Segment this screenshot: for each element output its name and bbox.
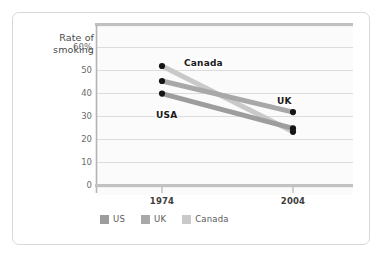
y-tick-20: 20 (58, 134, 92, 144)
legend-item-us[interactable]: US (100, 214, 125, 224)
chart-legend: US UK Canada (100, 214, 229, 224)
x-axis-spine (95, 184, 353, 187)
legend-item-canada[interactable]: Canada (182, 214, 229, 224)
datapoint-canada-1974 (159, 63, 165, 69)
plot-top-border (95, 23, 353, 26)
series-annotation-usa: USA (155, 110, 178, 120)
y-tick-30: 30 (58, 111, 92, 121)
x-tick-1974: 1974 (132, 196, 192, 206)
legend-label-canada: Canada (195, 214, 229, 224)
series-annotation-canada: Canada (183, 58, 224, 68)
datapoint-uk-1974 (159, 78, 165, 84)
y-tick-50: 50 (58, 65, 92, 75)
series-annotation-uk: UK (276, 96, 293, 106)
legend-label-us: US (113, 214, 125, 224)
legend-label-uk: UK (154, 214, 166, 224)
legend-swatch-canada (182, 215, 191, 224)
legend-swatch-us (100, 215, 109, 224)
y-tick-0: 0 (58, 180, 92, 190)
datapoint-canada-2004 (290, 129, 296, 135)
datapoint-us-1974 (159, 91, 165, 97)
datapoint-uk-2004 (290, 109, 296, 115)
legend-swatch-uk (141, 215, 150, 224)
y-tick-60: 60% (58, 42, 92, 52)
legend-item-uk[interactable]: UK (141, 214, 166, 224)
y-tick-40: 40 (58, 88, 92, 98)
x-tick-2004: 2004 (263, 196, 323, 206)
y-tick-10: 10 (58, 157, 92, 167)
